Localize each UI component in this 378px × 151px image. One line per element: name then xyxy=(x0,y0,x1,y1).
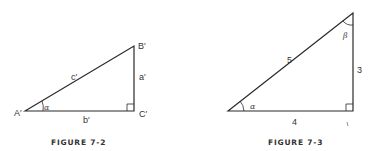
side-label-4: 4 xyxy=(292,117,297,127)
angle-label-alpha: α xyxy=(250,102,256,111)
figures-canvas: A′ B′ C′ c′ a′ b′ α FIGURE 7-2 5 3 4 α β… xyxy=(0,0,378,151)
angle-alpha-arc xyxy=(240,101,244,111)
figure-7-3: 5 3 4 α β FIGURE 7-3 xyxy=(228,13,362,147)
vertex-label-a: A′ xyxy=(14,108,22,118)
right-angle-marker xyxy=(346,104,353,111)
figure-caption: FIGURE 7-3 xyxy=(268,138,323,147)
angle-beta-arc xyxy=(343,21,353,25)
stray-tick-mark xyxy=(347,122,348,126)
vertex-label-b: B′ xyxy=(138,41,146,51)
figure-caption: FIGURE 7-2 xyxy=(51,138,106,147)
side-label-c: c′ xyxy=(71,72,78,82)
angle-label-alpha: α xyxy=(44,103,50,112)
side-label-5: 5 xyxy=(287,55,292,65)
side-label-b: b′ xyxy=(83,115,90,125)
vertex-label-c: C′ xyxy=(139,109,147,119)
angle-label-beta: β xyxy=(342,31,348,40)
side-label-a: a′ xyxy=(139,72,146,82)
figure-7-2: A′ B′ C′ c′ a′ b′ α FIGURE 7-2 xyxy=(14,41,147,147)
triangle-7-2 xyxy=(25,46,134,111)
side-label-3: 3 xyxy=(357,65,362,75)
right-angle-marker xyxy=(127,104,134,111)
